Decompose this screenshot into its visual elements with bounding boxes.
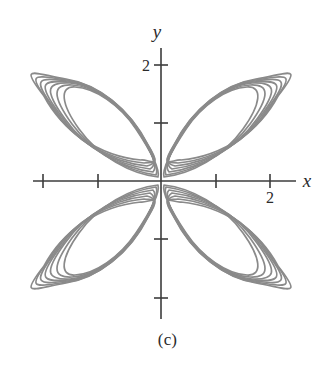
y-axis-label: y	[151, 21, 162, 42]
contour-ring	[31, 73, 155, 162]
y-tick-label-2: 2	[142, 57, 150, 74]
x-axis-label: x	[302, 170, 312, 191]
figure-caption: (c)	[0, 330, 335, 350]
contour-lobe-lower-left	[31, 185, 158, 289]
contour-lobe-upper-right	[164, 73, 291, 177]
x-tick-label-2: 2	[266, 189, 274, 206]
contour-ring	[167, 73, 291, 162]
contour-ring	[31, 200, 155, 289]
contour-plot-svg: x y 2 2	[0, 0, 335, 376]
contour-figure: x y 2 2 (c)	[0, 0, 335, 376]
contour-lobe-upper-left	[31, 73, 158, 177]
contour-ring	[167, 200, 291, 289]
